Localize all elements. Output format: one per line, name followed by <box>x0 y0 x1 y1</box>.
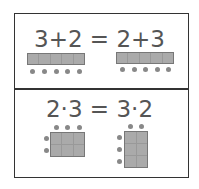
addition-equation: 3+2 = 2+3 <box>0 28 199 51</box>
addition-right-bar <box>116 52 174 64</box>
multiplication-right-grid <box>124 131 148 168</box>
addition-left-bar <box>27 53 85 65</box>
multiplication-left-grid <box>50 132 85 157</box>
multiplication-equation: 2·3 = 3·2 <box>0 98 199 121</box>
panel-divider <box>14 88 189 90</box>
